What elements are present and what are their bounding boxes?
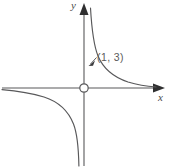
curve-branch-quadrant-one	[91, 8, 157, 87]
graph-canvas	[0, 0, 170, 168]
y-axis-label: y	[71, 0, 76, 11]
curve-branch-quadrant-three	[2, 90, 79, 166]
x-axis-label: x	[158, 92, 163, 103]
hyperbola-graph-figure: y x (1, 3)	[0, 0, 170, 168]
y-axis-arrowhead	[80, 3, 89, 15]
origin-open-circle-marker	[80, 84, 88, 92]
point-label-arrowhead-icon	[89, 61, 96, 67]
point-coordinate-label: (1, 3)	[97, 52, 124, 63]
